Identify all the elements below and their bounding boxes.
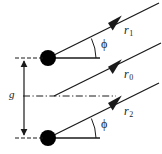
angle-arc-upper — [91, 39, 96, 59]
ray-diagram-figure: r1 r0 r2 g ϕ ϕ — [0, 0, 162, 154]
ray-arrowhead-r1 — [108, 16, 122, 31]
ray-arrowhead-r0 — [108, 59, 122, 74]
ray-label-r2: r2 — [124, 105, 133, 117]
ray-diagram-canvas — [0, 0, 162, 154]
ray-label-r0: r0 — [124, 68, 133, 80]
angle-label-lower: ϕ — [101, 118, 107, 130]
ray-label-r1: r1 — [124, 24, 133, 36]
ray-line-r0 — [54, 43, 161, 96]
angle-arc-lower — [91, 119, 96, 139]
angle-label-upper: ϕ — [101, 38, 107, 50]
gap-label: g — [9, 89, 15, 100]
ray-arrowhead-r2 — [108, 96, 122, 111]
